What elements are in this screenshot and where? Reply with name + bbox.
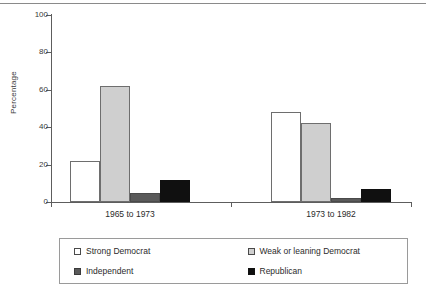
y-axis-title-container: Percentage [14, 60, 24, 140]
legend-swatch-republican [248, 268, 255, 275]
bar-republican-group-1 [160, 180, 190, 202]
legend-label: Weak or leaning Democrat [260, 246, 360, 256]
legend-label: Strong Democrat [86, 246, 150, 256]
x-axis-tick-mark [231, 202, 232, 207]
bar-independent-group-1 [130, 193, 160, 202]
bar-weak-democrat-group-2 [301, 123, 331, 202]
y-axis-tick-label: 100 [35, 11, 48, 19]
legend-swatch-strong-democrat [74, 248, 81, 255]
y-axis-tick-label: 20 [39, 161, 48, 169]
legend-item-independent: Independent [60, 266, 234, 276]
y-axis-tick-label: 0 [44, 198, 48, 206]
bar-republican-group-2 [361, 189, 391, 202]
y-axis-title: Percentage [10, 71, 18, 114]
x-axis-tick-mark [51, 202, 52, 207]
legend-item-strong-democrat: Strong Democrat [60, 246, 234, 256]
x-axis-group-label: 1965 to 1973 [105, 210, 155, 219]
y-axis-tick-label: 60 [39, 86, 48, 94]
legend-label: Republican [260, 266, 303, 276]
legend-swatch-independent [74, 268, 81, 275]
bar-chart-figure: Percentage 020406080100 1965 to 19731973… [0, 0, 426, 292]
legend-label: Independent [86, 266, 133, 276]
y-axis-tick-label: 40 [39, 123, 48, 131]
chart-legend: Strong DemocratWeak or leaning DemocratI… [59, 238, 408, 284]
legend-swatch-weak-democrat [248, 248, 255, 255]
bar-strong-democrat-group-2 [271, 112, 301, 202]
legend-item-republican: Republican [234, 266, 408, 276]
plot-area: 020406080100 [51, 15, 412, 202]
bar-weak-democrat-group-1 [100, 86, 130, 202]
legend-grid: Strong DemocratWeak or leaning DemocratI… [60, 239, 407, 283]
legend-item-weak-democrat: Weak or leaning Democrat [234, 246, 408, 256]
y-axis-tick-label: 80 [39, 48, 48, 56]
x-axis-tick-mark [411, 202, 412, 207]
x-axis-group-label: 1973 to 1982 [306, 210, 356, 219]
bar-independent-group-2 [331, 198, 361, 202]
bar-strong-democrat-group-1 [70, 161, 100, 202]
